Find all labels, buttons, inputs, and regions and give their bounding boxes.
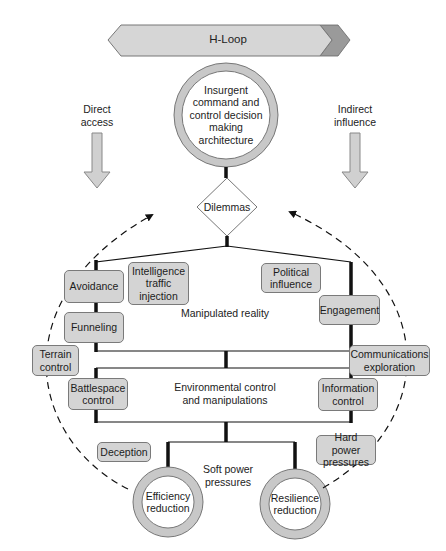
indirect-influence-label: Indirect influence xyxy=(320,103,390,128)
efficiency-reduction-label: Efficiency reduction xyxy=(142,488,194,516)
communications-exploration-box: Communications exploration xyxy=(349,345,430,376)
direct-access-arrow-icon xyxy=(84,133,110,188)
banner-label: H-Loop xyxy=(180,33,276,46)
top-node-label: Insurgent command and control decision m… xyxy=(181,78,271,152)
manipulated-reality-label: Manipulated reality xyxy=(170,307,280,320)
funneling-box: Funneling xyxy=(64,312,124,343)
indirect-influence-arrow-icon xyxy=(342,133,368,188)
terrain-control-box: Terrain control xyxy=(32,345,79,376)
direct-access-label: Direct access xyxy=(67,103,127,128)
information-control-box: Information control xyxy=(318,378,378,411)
soft-power-pressures-label: Soft power pressures xyxy=(197,463,259,488)
environmental-control-label: Environmental control and manipulations xyxy=(165,381,285,406)
political-influence-box: Political influence xyxy=(261,263,321,293)
hard-power-pressures-box: Hard power pressures xyxy=(316,435,376,465)
resilience-reduction-label: Resilience reduction xyxy=(268,490,322,518)
deception-box: Deception xyxy=(97,442,151,462)
intelligence-traffic-injection-box: Intelligence traffic injection xyxy=(128,262,189,305)
battlespace-control-box: Battlespace control xyxy=(68,378,128,410)
engagement-box: Engagement xyxy=(319,295,380,325)
dilemmas-label: Dilemmas xyxy=(197,201,257,214)
avoidance-box: Avoidance xyxy=(64,270,124,303)
